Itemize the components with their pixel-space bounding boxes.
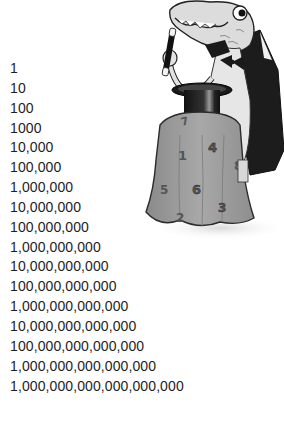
svg-text:4: 4 [208, 140, 217, 155]
number-item: 1,000,000,000,000 [10, 297, 184, 317]
powers-of-ten-list: 1 10 100 1000 10,000 100,000 1,000,000 1… [10, 59, 184, 396]
number-item: 10 [10, 79, 184, 99]
number-item: 1,000,000 [10, 178, 184, 198]
number-item: 10,000,000 [10, 198, 184, 218]
svg-text:3: 3 [218, 201, 226, 215]
number-item: 1,000,000,000,000,000,000 [10, 377, 184, 397]
number-item: 1,000,000,000,000,000 [10, 357, 184, 377]
number-item: 1 [10, 59, 184, 79]
number-item: 10,000,000,000 [10, 257, 184, 277]
leg [238, 160, 248, 182]
number-item: 1000 [10, 119, 184, 139]
number-item: 100,000,000,000 [10, 277, 184, 297]
number-item: 100,000,000 [10, 218, 184, 238]
number-item: 10,000,000,000,000 [10, 317, 184, 337]
number-item: 100,000,000,000,000 [10, 337, 184, 357]
number-item: 100 [10, 99, 184, 119]
number-item: 1,000,000,000 [10, 238, 184, 258]
svg-text:6: 6 [192, 182, 201, 197]
number-item: 10,000 [10, 138, 184, 158]
number-item: 100,000 [10, 158, 184, 178]
